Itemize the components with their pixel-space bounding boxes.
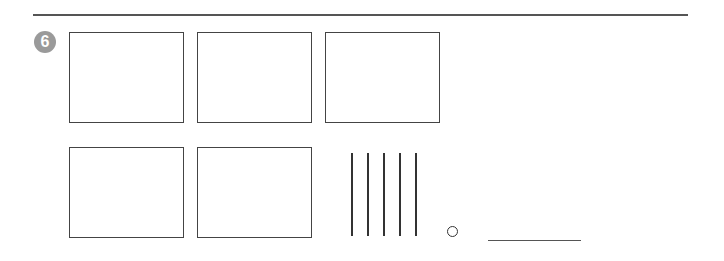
ten-frame-box-3 <box>325 32 440 123</box>
answer-blank-line[interactable] <box>488 240 581 241</box>
ten-frame-box-1 <box>69 32 184 123</box>
tally-mark-1 <box>351 153 353 236</box>
ten-frame-box-5 <box>197 147 312 238</box>
ten-frame-box-2 <box>197 32 312 123</box>
ten-frame-box-4 <box>69 147 184 238</box>
top-divider-rule <box>33 14 688 16</box>
tally-mark-5 <box>415 153 417 236</box>
problem-number-badge: 6 <box>34 31 56 53</box>
comparison-circle[interactable] <box>447 226 458 237</box>
tally-mark-4 <box>399 153 401 236</box>
tally-mark-2 <box>367 153 369 236</box>
tally-mark-3 <box>383 153 385 236</box>
